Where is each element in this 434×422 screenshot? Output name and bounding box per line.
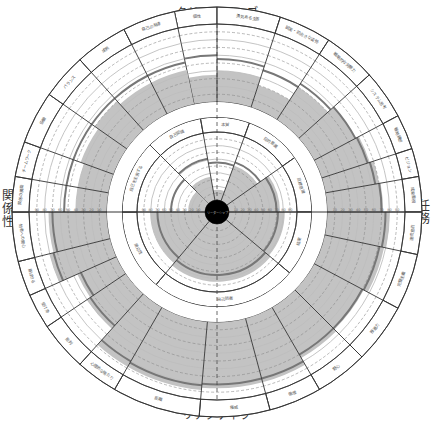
svg-text:80: 80 bbox=[148, 208, 152, 212]
svg-text:60: 60 bbox=[58, 208, 62, 212]
svg-text:50: 50 bbox=[66, 208, 70, 212]
svg-text:50: 50 bbox=[364, 208, 368, 212]
svg-text:10: 10 bbox=[196, 208, 200, 212]
svg-text:40: 40 bbox=[176, 208, 180, 212]
svg-text:20: 20 bbox=[340, 208, 344, 212]
svg-text:10: 10 bbox=[97, 208, 101, 212]
svg-text:30: 30 bbox=[247, 208, 251, 212]
svg-text:40: 40 bbox=[356, 208, 360, 212]
svg-text:70: 70 bbox=[274, 208, 278, 212]
svg-text:10: 10 bbox=[234, 208, 238, 212]
svg-text:80: 80 bbox=[42, 208, 46, 212]
svg-text:90: 90 bbox=[35, 208, 39, 212]
svg-text:90: 90 bbox=[288, 208, 292, 212]
svg-text:80: 80 bbox=[281, 208, 285, 212]
svg-text:20: 20 bbox=[240, 208, 244, 212]
svg-text:70: 70 bbox=[50, 208, 54, 212]
svg-text:30: 30 bbox=[182, 208, 186, 212]
svg-text:60: 60 bbox=[162, 208, 166, 212]
svg-text:10: 10 bbox=[333, 208, 337, 212]
center-label: リーダーシップ bbox=[207, 210, 229, 215]
svg-text:40: 40 bbox=[74, 208, 78, 212]
svg-text:30: 30 bbox=[81, 208, 85, 212]
svg-text:70: 70 bbox=[379, 208, 383, 212]
svg-text:90: 90 bbox=[142, 208, 146, 212]
svg-text:50: 50 bbox=[169, 208, 173, 212]
svg-text:50: 50 bbox=[261, 208, 265, 212]
leadership-circle-chart: 自己認識本質目的意識目標意識結果自己防衛順応性自己を主張する個性勇気ある主張誠実… bbox=[0, 0, 434, 422]
svg-text:70: 70 bbox=[155, 208, 159, 212]
svg-text:20: 20 bbox=[89, 208, 93, 212]
svg-text:20: 20 bbox=[189, 208, 193, 212]
svg-text:90: 90 bbox=[395, 208, 399, 212]
svg-text:30: 30 bbox=[348, 208, 352, 212]
svg-text:60: 60 bbox=[372, 208, 376, 212]
svg-text:60: 60 bbox=[268, 208, 272, 212]
svg-text:40: 40 bbox=[254, 208, 258, 212]
svg-text:80: 80 bbox=[387, 208, 391, 212]
